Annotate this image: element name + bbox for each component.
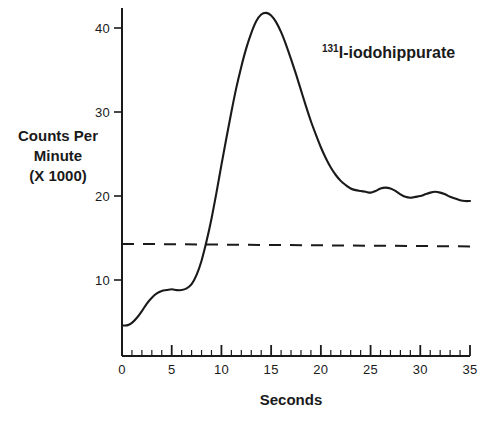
- y-axis-title-line-3: (X 1000): [29, 167, 87, 184]
- isotope-superscript: 131: [322, 43, 339, 54]
- y-axis-title-line-2: Minute: [34, 147, 82, 164]
- series-annotation-group: 131I-iodohippurate: [322, 43, 455, 61]
- series-annotation-text: I-iodohippurate: [339, 44, 456, 61]
- series-annotation: 131I-iodohippurate: [322, 43, 455, 61]
- chart-svg: 40 30 20 10 05101520253035 131I-iodohipp…: [0, 0, 484, 426]
- x-tick-label-30: 30: [413, 362, 428, 377]
- x-tick-label-5: 5: [168, 362, 176, 377]
- y-tick-label-30: 30: [95, 105, 110, 120]
- y-axis-title-line-1: Counts Per: [18, 127, 98, 144]
- x-tick-label-15: 15: [264, 362, 279, 377]
- y-tick-label-40: 40: [95, 21, 110, 36]
- x-tick-label-35: 35: [462, 362, 477, 377]
- y-tick-label-20: 20: [95, 189, 110, 204]
- x-tick-label-10: 10: [214, 362, 229, 377]
- x-tick-label-20: 20: [313, 362, 328, 377]
- x-axis-title: Seconds: [260, 391, 323, 408]
- x-tick-label-0: 0: [118, 362, 126, 377]
- chart-figure: 40 30 20 10 05101520253035 131I-iodohipp…: [0, 0, 484, 426]
- x-tick-label-25: 25: [363, 362, 378, 377]
- y-tick-label-10: 10: [95, 273, 110, 288]
